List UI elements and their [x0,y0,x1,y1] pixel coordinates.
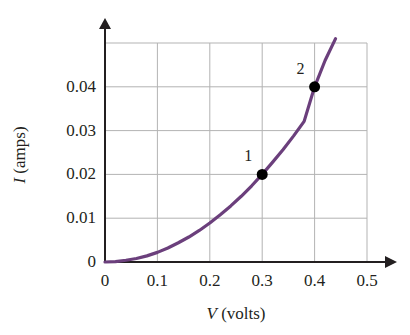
xtick-label-5: 0.5 [356,271,377,291]
iv-curve-figure: 0 0.01 0.02 0.03 0.04 0 0.1 0.2 0.3 0.4 … [0,0,410,335]
point-label-1: 1 [244,147,252,165]
y-axis-unit: (amps) [10,126,29,177]
xtick-label-4: 0.4 [304,271,325,291]
x-axis-title: V (volts) [206,304,265,324]
ytick-label-4: 0.04 [28,77,96,97]
x-axis-unit: (volts) [217,304,266,323]
xtick-label-0: 0 [101,271,110,291]
xtick-label-2: 0.2 [199,271,220,291]
point-label-2: 2 [297,60,305,78]
ytick-label-1: 0.01 [28,208,96,228]
ytick-label-3: 0.03 [28,121,96,141]
xtick-label-3: 0.3 [252,271,273,291]
xtick-label-1: 0.1 [147,271,168,291]
y-axis-variable: I [10,178,29,184]
x-axis-variable: V [206,304,216,323]
ytick-label-0: 0 [28,252,96,272]
y-axis-title: I (amps) [10,126,30,183]
grid-lines [105,43,367,262]
axes [99,18,397,268]
ytick-label-2: 0.02 [28,164,96,184]
